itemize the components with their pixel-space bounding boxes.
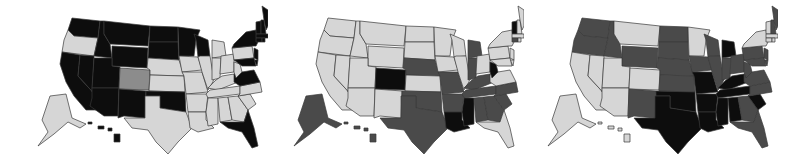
state-ri (262, 38, 265, 42)
state-wi (450, 34, 466, 57)
state-hi (88, 122, 120, 142)
state-ne (657, 58, 694, 76)
state-ny (742, 30, 768, 48)
state-ma (766, 34, 778, 38)
state-ks (659, 75, 695, 92)
state-sd (404, 42, 435, 60)
state-ks (149, 75, 185, 92)
state-ms (462, 98, 474, 126)
state-nm (628, 89, 656, 118)
state-wi (194, 34, 210, 57)
state-oh (476, 54, 490, 74)
state-vt (256, 21, 261, 34)
us-choropleth-map-3 (538, 0, 778, 163)
map-1-svg (28, 0, 268, 163)
state-ct (256, 38, 262, 42)
state-ri (772, 38, 775, 42)
state-az (90, 88, 119, 116)
state-oh (730, 54, 744, 74)
state-ri (518, 38, 521, 42)
state-nm (118, 89, 146, 118)
state-nj (254, 48, 258, 60)
state-mt (614, 21, 660, 46)
us-choropleth-map-2 (284, 0, 524, 163)
state-nd (405, 26, 434, 42)
state-ne (147, 58, 184, 76)
state-ny (232, 30, 258, 48)
state-pa (232, 46, 254, 60)
state-wi (704, 34, 720, 57)
state-ks (405, 75, 441, 92)
state-in (722, 58, 731, 80)
state-mt (360, 21, 406, 46)
state-ar (442, 94, 464, 112)
state-nj (764, 48, 768, 60)
state-pa (488, 46, 510, 60)
state-mt (104, 21, 150, 46)
state-ny (488, 30, 514, 48)
state-ct (512, 38, 518, 42)
state-wy (368, 46, 404, 68)
state-ne (403, 58, 440, 76)
state-nj (510, 48, 514, 60)
map-3-svg (538, 0, 778, 163)
state-ma (512, 34, 524, 38)
state-az (600, 88, 629, 116)
state-hi (344, 122, 376, 142)
state-co (119, 68, 150, 90)
us-choropleth-map-1 (28, 0, 268, 163)
state-wy (622, 46, 658, 68)
state-in (212, 58, 221, 80)
state-nd (659, 26, 688, 42)
state-az (346, 88, 375, 116)
state-ar (696, 94, 718, 112)
state-ms (716, 98, 728, 126)
state-ct (766, 38, 772, 42)
state-ms (206, 98, 218, 126)
state-vt (766, 21, 771, 34)
state-sd (148, 42, 179, 60)
state-nd (149, 26, 178, 42)
state-vt (512, 21, 517, 34)
state-sd (658, 42, 689, 60)
map-2-svg (284, 0, 524, 163)
state-nm (374, 89, 402, 118)
state-pa (742, 46, 764, 60)
state-ma (256, 34, 268, 38)
state-wy (112, 46, 148, 68)
state-hi (598, 122, 630, 142)
state-in (468, 58, 477, 80)
state-oh (220, 54, 234, 74)
state-co (375, 68, 406, 90)
state-co (629, 68, 660, 90)
state-ar (186, 94, 208, 112)
